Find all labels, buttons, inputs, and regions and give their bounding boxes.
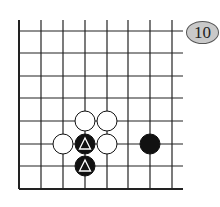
white-stone (97, 111, 117, 131)
diagram-number-badge: 10 (186, 21, 219, 44)
white-stone (97, 134, 117, 154)
white-stone (75, 111, 95, 131)
white-stone (53, 134, 73, 154)
black-stone (140, 134, 160, 154)
